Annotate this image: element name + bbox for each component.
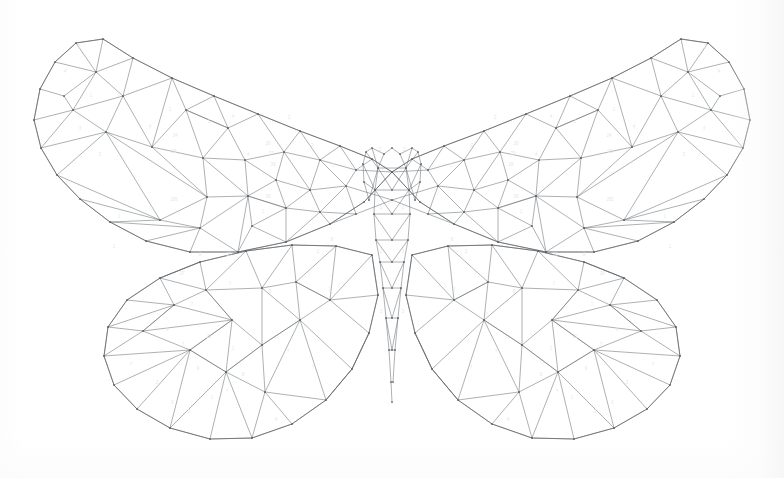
cell-number: 26 <box>607 149 613 154</box>
cell-number: 7 <box>229 281 232 286</box>
antennae <box>363 148 421 200</box>
cell-number: 3 <box>171 400 174 405</box>
upper-left-wing-outline <box>34 39 392 252</box>
cell-number: 1 <box>232 346 235 351</box>
cell-number: 2 <box>402 249 405 254</box>
cell-number: 24 <box>172 133 178 138</box>
cell-number: 2 <box>626 380 629 385</box>
cell-number: 2 <box>704 44 707 49</box>
cell-number: 4 <box>507 417 510 422</box>
cell-number: 1 <box>550 346 553 351</box>
cell-number: 9 <box>197 366 200 371</box>
cell-number: 7 <box>226 389 229 394</box>
cell-number: 8 <box>583 252 586 257</box>
cell-number: 2 <box>683 152 686 157</box>
cell-number: 7 <box>600 342 603 347</box>
cell-number: 2 <box>317 249 320 254</box>
cell-number: 1 <box>332 163 335 168</box>
cell-number: 4 <box>550 114 553 119</box>
cell-number: 27 <box>268 151 274 156</box>
cell-number: 1 <box>574 119 577 124</box>
cell-number: 4 <box>149 124 152 129</box>
cell-number: 7 <box>470 365 473 370</box>
cell-number: 1 <box>90 93 93 98</box>
cell-number: 4 <box>275 417 278 422</box>
cell-number: 3 <box>79 126 82 131</box>
lower-right-wing <box>406 245 680 439</box>
cell-number: 26 <box>606 197 612 202</box>
cell-number: 4 <box>64 69 67 74</box>
cell-number: 1 <box>402 205 405 210</box>
cell-number: 1 <box>208 119 211 124</box>
cell-number: 2 <box>380 309 383 314</box>
cell-number: 2 <box>594 409 597 414</box>
cell-number: 8 <box>451 237 454 242</box>
cell-number: 26 <box>172 197 178 202</box>
cell-number: 2 <box>288 115 291 120</box>
cell-number: 1 <box>613 107 616 112</box>
cell-number: 9 <box>616 327 619 332</box>
cell-number: 1 <box>664 214 667 219</box>
cell-number: 2 <box>465 249 468 254</box>
cell-number: 2 <box>494 115 497 120</box>
cell-number: 7 <box>182 342 185 347</box>
cell-number: 1 <box>692 93 695 98</box>
cell-number: 3 <box>703 126 706 131</box>
cell-number: 7 <box>556 389 559 394</box>
cell-number: 23 <box>226 252 232 257</box>
cell-number: 1 <box>380 205 383 210</box>
cell-number: 2 <box>664 93 667 98</box>
cell-number: 2 <box>380 249 383 254</box>
cell-number: 2 <box>379 147 382 152</box>
cell-number: 22 <box>572 334 578 339</box>
cell-number: 1 <box>169 107 172 112</box>
cell-number: 2 <box>311 143 314 148</box>
cell-number: 2 <box>471 143 474 148</box>
cell-number: 2 <box>403 147 406 152</box>
cell-number: 22 <box>206 334 212 339</box>
cell-number: 26 <box>513 141 519 146</box>
cell-number: 4 <box>633 124 636 129</box>
cell-number: 2 <box>156 380 159 385</box>
cell-number: 9 <box>166 327 169 332</box>
cell-number: 6 <box>269 289 272 294</box>
cell-number: 2 <box>118 93 121 98</box>
cell-number: 1 <box>118 214 121 219</box>
cell-number: 7 <box>191 302 194 307</box>
cell-number: 8 <box>242 372 245 377</box>
cell-number: 2 <box>99 152 102 157</box>
cell-number: 28 <box>508 162 514 167</box>
cell-number: 7 <box>553 281 556 286</box>
cell-number: 26 <box>513 194 519 199</box>
cell-number: 2 <box>402 309 405 314</box>
cell-number: 7 <box>485 312 488 317</box>
cell-number: 4 <box>232 114 235 119</box>
cell-number: 26 <box>171 149 177 154</box>
upper-right-wing-outline <box>392 39 750 252</box>
cell-number: 1 <box>113 244 116 249</box>
cell-number: 7 <box>495 349 498 354</box>
cell-number: 2 <box>329 287 332 292</box>
lower-left-wing <box>104 245 378 439</box>
cell-number: 1 <box>211 395 214 400</box>
cell-number: 4 <box>535 152 538 157</box>
cell-number: 7 <box>652 362 655 367</box>
cell-number: 6 <box>513 289 516 294</box>
cell-number: 29 <box>599 271 605 276</box>
cell-number: 9 <box>585 366 588 371</box>
cell-number: 24 <box>606 133 612 138</box>
cell-number: 8 <box>540 372 543 377</box>
cell-number: 2 <box>453 287 456 292</box>
cell-number: 23 <box>552 252 558 257</box>
cell-number: 1 <box>450 163 453 168</box>
cell-number: 8 <box>331 237 334 242</box>
cell-numbers: 2412342111224262614226272842126182682327… <box>64 44 721 422</box>
cell-number: 3 <box>611 400 614 405</box>
cell-number: 7 <box>591 302 594 307</box>
cell-number: 7 <box>130 362 133 367</box>
cell-number: 28 <box>270 162 276 167</box>
vertex-dots <box>33 38 751 440</box>
butterfly-lowpoly-figure: 2412342111224262614226272842126182682327… <box>0 0 784 478</box>
cell-number: 1 <box>520 209 523 214</box>
cell-number: 7 <box>297 312 300 317</box>
